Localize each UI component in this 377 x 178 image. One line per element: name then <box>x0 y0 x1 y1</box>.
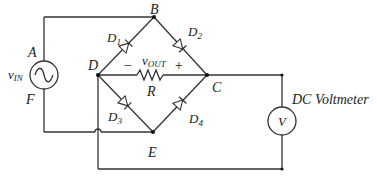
voltmeter-label: DC Voltmeter <box>291 92 369 107</box>
svg-text:D3: D3 <box>107 109 122 126</box>
node-label-a: A <box>27 45 37 60</box>
svg-text:D2: D2 <box>187 24 202 41</box>
d4-label: D4 <box>188 111 203 128</box>
d2-label: D2 <box>187 24 202 41</box>
node-label-f: F <box>25 92 35 107</box>
node-label-d: D <box>87 58 98 73</box>
node-label-c: C <box>212 80 222 95</box>
ac-source <box>30 61 58 89</box>
svg-text:vIN: vIN <box>8 67 24 83</box>
d3-label: D3 <box>107 109 122 126</box>
node-label-b: B <box>150 2 159 17</box>
vin-sub: IN <box>13 73 24 83</box>
svg-text:D1: D1 <box>106 30 121 47</box>
vin-label: vIN <box>8 67 24 83</box>
svg-text:D4: D4 <box>188 111 203 128</box>
node-label-e: E <box>147 145 157 160</box>
vout-minus: − <box>123 58 132 73</box>
vout-plus: + <box>174 58 183 73</box>
d1-label: D1 <box>106 30 121 47</box>
voltmeter: V <box>268 107 296 135</box>
resistor-label: R <box>146 84 156 99</box>
svg-text:vOUT: vOUT <box>142 53 167 69</box>
vout-label: vOUT <box>142 53 167 69</box>
bridge-rectifier-diagram: V A F B D C E vIN D1 D2 D3 D4 vOUT − + R… <box>0 0 377 178</box>
